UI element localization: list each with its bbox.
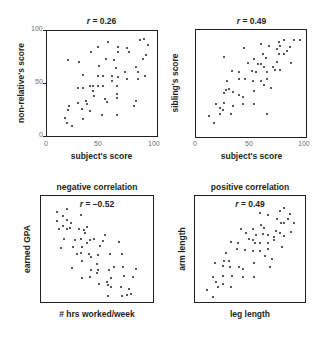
data-point	[228, 260, 230, 262]
data-point	[219, 107, 221, 109]
data-point	[99, 245, 101, 247]
data-point	[252, 80, 254, 82]
chart-3-xlabel: # hrs worked/week	[40, 309, 154, 319]
data-point	[226, 80, 228, 82]
data-point	[81, 260, 83, 262]
data-point	[278, 41, 280, 43]
chart-2-title: r = 0.49	[196, 16, 307, 26]
chart-1-ytick-mark-100	[43, 30, 46, 31]
chart-4-xlabel: leg length	[194, 309, 306, 319]
data-point	[113, 59, 115, 61]
data-point	[213, 122, 215, 124]
data-point	[92, 85, 94, 87]
data-point	[238, 94, 240, 96]
data-point	[67, 109, 69, 111]
chart-1-xtick-100: 100	[148, 140, 160, 147]
data-point	[106, 101, 108, 103]
data-point	[293, 222, 295, 224]
data-point	[223, 92, 225, 94]
data-point	[252, 239, 254, 241]
data-point	[118, 241, 120, 243]
data-point	[88, 253, 90, 255]
data-point	[223, 102, 225, 104]
data-point	[242, 103, 244, 105]
data-point	[257, 63, 259, 65]
data-point	[96, 272, 98, 274]
data-point	[62, 215, 64, 217]
data-point	[77, 102, 79, 104]
data-point	[283, 39, 285, 41]
chart-2-xtick-0: 0	[193, 140, 197, 147]
data-point	[244, 78, 246, 80]
data-point	[104, 98, 106, 100]
data-point	[116, 93, 118, 95]
chart-4-plot-area: r = 0.49	[194, 195, 306, 303]
data-point	[279, 69, 281, 71]
chart-4-ylabel: arm length	[177, 189, 187, 309]
data-point	[113, 266, 115, 268]
data-point	[93, 95, 95, 97]
data-point	[98, 65, 100, 67]
data-point	[253, 103, 255, 105]
data-point	[252, 250, 254, 252]
chart-1-xtick-0: 0	[44, 140, 48, 147]
data-point	[281, 246, 283, 248]
data-point	[80, 214, 82, 216]
data-point	[56, 211, 58, 213]
data-point	[90, 256, 92, 258]
data-point	[273, 239, 275, 241]
data-point	[289, 46, 291, 48]
data-point	[253, 90, 255, 92]
data-point	[260, 43, 262, 45]
data-point	[117, 76, 119, 78]
data-point	[81, 277, 83, 279]
data-point	[283, 235, 285, 237]
data-point	[222, 265, 224, 267]
data-point	[110, 277, 112, 279]
data-point	[123, 275, 125, 277]
chart-2-xtick-50: 50	[245, 140, 253, 147]
data-point	[255, 71, 257, 73]
data-point	[230, 286, 232, 288]
data-point	[242, 96, 244, 98]
data-point	[85, 100, 87, 102]
data-point	[278, 53, 280, 55]
data-point	[222, 283, 224, 285]
data-point	[89, 85, 91, 87]
data-point	[110, 286, 112, 288]
data-point	[283, 207, 285, 209]
data-point	[263, 227, 265, 229]
data-point	[231, 275, 233, 277]
data-point	[247, 62, 249, 64]
data-point	[263, 84, 265, 86]
data-point	[286, 50, 288, 52]
data-point	[107, 284, 109, 286]
data-point	[116, 85, 118, 87]
data-point	[97, 269, 99, 271]
data-point	[245, 232, 247, 234]
data-point	[81, 246, 83, 248]
data-point	[107, 295, 109, 297]
data-point	[89, 239, 91, 241]
data-point	[64, 117, 66, 119]
data-point	[268, 45, 270, 47]
data-point	[283, 53, 285, 55]
data-point	[223, 260, 225, 262]
data-point	[126, 294, 128, 296]
data-point	[86, 226, 88, 228]
data-point	[67, 59, 69, 61]
chart-1-title: r = 0.26	[46, 16, 157, 26]
chart-1-ytick-50: 50	[35, 78, 43, 85]
data-point	[222, 109, 224, 111]
data-point	[267, 248, 269, 250]
data-point	[109, 253, 111, 255]
data-point	[102, 75, 104, 77]
data-point	[260, 80, 262, 82]
data-point	[97, 85, 99, 87]
data-point	[248, 238, 250, 240]
chart-1-plot-area	[46, 30, 158, 137]
data-point	[219, 113, 221, 115]
data-point	[293, 39, 295, 41]
data-point	[74, 239, 76, 241]
data-point	[244, 249, 246, 251]
